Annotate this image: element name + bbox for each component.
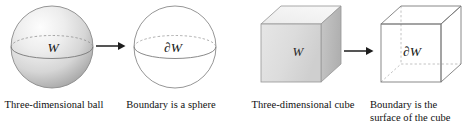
- caption-three-dimensional-ball: Three-dimensional ball: [0, 99, 108, 112]
- panel-ball: W ∂W Three-dimensional ball Boundary is …: [0, 0, 229, 128]
- caption-boundary-is-the: Boundary is the: [370, 99, 462, 112]
- wireframe-cube-label: ∂W: [392, 42, 432, 60]
- wireframe-cube-label-text: ∂W: [403, 44, 421, 59]
- caption-surface-of-the-cube: surface of the cube: [370, 112, 462, 125]
- solid-sphere-label-text: W: [47, 40, 58, 55]
- caption-boundary-is-a-sphere: Boundary is a sphere: [116, 99, 226, 112]
- solid-cube-label: W: [281, 42, 315, 60]
- arrow-ball-to-sphere: [95, 39, 127, 53]
- panel-cube: W ∂W Three-dimensional cube: [229, 0, 459, 128]
- wireframe-sphere-label-text: ∂W: [164, 40, 182, 55]
- caption-three-dimensional-cube: Three-dimensional cube: [243, 99, 363, 112]
- arrow-cube-to-surface: [343, 44, 375, 58]
- solid-cube-label-text: W: [293, 44, 304, 59]
- solid-sphere-label: W: [38, 38, 68, 56]
- wireframe-sphere-label: ∂W: [155, 38, 191, 56]
